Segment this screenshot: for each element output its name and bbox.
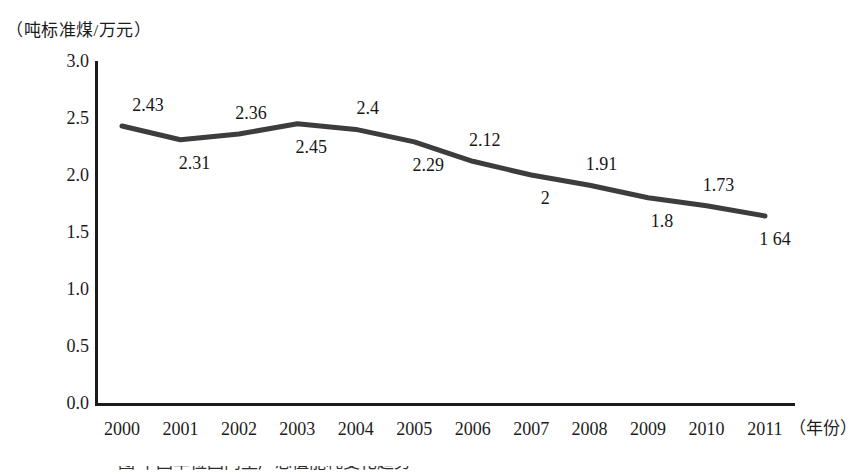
x-axis-tick-2006: 2006 (442, 419, 504, 439)
line-chart: （吨标准煤/万元） 3.02.52.01.51.00.50.0 20002001… (0, 0, 861, 474)
x-axis-tick-2000: 2000 (91, 419, 153, 439)
x-axis-tick-2010: 2010 (676, 419, 738, 439)
figure-caption-text: 图 中国单位国内生产总值能耗变化趋势 (118, 466, 411, 473)
figure-caption-clipped: 图 中国单位国内生产总值能耗变化趋势 (0, 466, 861, 474)
data-label-2002: 2.36 (235, 104, 267, 122)
data-label-2000: 2.43 (132, 96, 164, 114)
data-label-2007: 2 (541, 189, 550, 207)
x-axis-tick-2005: 2005 (383, 419, 445, 439)
x-axis-tick-2001: 2001 (149, 419, 211, 439)
data-label-2009: 1.8 (651, 212, 674, 230)
x-axis-tick-2003: 2003 (266, 419, 328, 439)
data-label-2006: 2.12 (469, 131, 501, 149)
x-axis-tick-2009: 2009 (617, 419, 679, 439)
data-label-2003: 2.45 (296, 138, 328, 156)
data-label-2008: 1.91 (586, 155, 618, 173)
plot-area (0, 0, 861, 474)
data-label-2005: 2.29 (413, 156, 445, 174)
data-label-2004: 2.4 (357, 99, 380, 117)
x-axis-unit-label: （年份） (789, 419, 857, 439)
x-axis-tick-2008: 2008 (559, 419, 621, 439)
data-label-2001: 2.31 (179, 154, 211, 172)
x-axis-tick-2007: 2007 (500, 419, 562, 439)
x-axis-tick-2011: 2011 (734, 419, 796, 439)
data-label-2010: 1.73 (703, 176, 735, 194)
data-label-2011: 1 64 (759, 230, 791, 248)
x-axis-tick-2004: 2004 (325, 419, 387, 439)
x-axis-tick-2002: 2002 (208, 419, 270, 439)
